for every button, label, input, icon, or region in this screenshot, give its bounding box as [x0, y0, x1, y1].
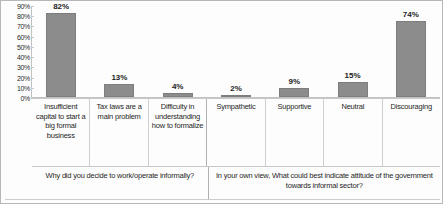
category-label: Neutral [324, 99, 382, 166]
bar-value-label: 82% [53, 2, 69, 11]
y-axis-tick-label: 90% [17, 3, 30, 10]
bar-chart-figure: 90%80%70%60%50%40%30%20%10%0% 82%13%4%2%… [0, 0, 443, 204]
bar-slot: 15% [323, 5, 381, 97]
y-axis-tick-mark [31, 6, 34, 7]
y-axis-tick-label: 30% [17, 64, 30, 71]
bar-slot: 4% [149, 5, 207, 97]
category-label: Insufficient capital to start a big form… [32, 99, 90, 166]
category-label: Tax laws are a main problem [90, 99, 148, 166]
bar[interactable] [221, 95, 251, 97]
y-axis-tick-mark [31, 16, 34, 17]
category-label: Discouraging [383, 99, 440, 166]
y-axis-tick-mark [31, 37, 34, 38]
y-axis-tick-label: 0% [20, 95, 30, 102]
bar[interactable] [163, 93, 193, 97]
bars-area: 82%13%4%2%9%15%74% [32, 5, 440, 98]
y-axis-tick-label: 40% [17, 54, 30, 61]
y-axis-tick-mark [31, 47, 34, 48]
category-label: Sympathetic [207, 99, 265, 166]
y-axis: 90%80%70%60%50%40%30%20%10%0% [5, 5, 31, 98]
bar-value-label: 74% [403, 10, 419, 19]
plot-region: 90%80%70%60%50%40%30%20%10%0% 82%13%4%2%… [5, 5, 440, 98]
group-question-label: Why did you decide to work/operate infor… [32, 167, 209, 200]
bottom-divider [5, 199, 440, 200]
bar[interactable] [279, 88, 309, 97]
bar-slot: 13% [90, 5, 148, 97]
y-axis-tick-mark [31, 67, 34, 68]
y-axis-tick-label: 50% [17, 43, 30, 50]
y-axis-tick-label: 80% [17, 13, 30, 20]
bar-value-label: 4% [172, 82, 184, 91]
bar-slot: 2% [207, 5, 265, 97]
bar[interactable] [104, 84, 134, 97]
group-question-row: Why did you decide to work/operate infor… [32, 166, 440, 200]
y-axis-tick-label: 10% [17, 84, 30, 91]
bar[interactable] [46, 13, 76, 97]
bar-value-label: 9% [289, 77, 301, 86]
bar-value-label: 13% [111, 73, 127, 82]
category-label: Difficulty in understanding how to forma… [149, 99, 207, 166]
bar[interactable] [338, 82, 368, 97]
category-label-row: Insufficient capital to start a big form… [32, 98, 440, 166]
bar[interactable] [396, 21, 426, 97]
y-axis-tick-mark [31, 88, 34, 89]
bar-slot: 82% [32, 5, 90, 97]
y-axis-tick-mark [31, 57, 34, 58]
bar-slot: 74% [382, 5, 440, 97]
y-axis-tick-label: 70% [17, 23, 30, 30]
y-axis-tick-mark [31, 78, 34, 79]
category-label: Supportive [266, 99, 324, 166]
y-axis-tick-label: 20% [17, 74, 30, 81]
y-axis-tick-mark [31, 26, 34, 27]
group-question-label: In your own view, What could best indica… [209, 167, 440, 200]
y-axis-tick-label: 60% [17, 33, 30, 40]
bar-value-label: 15% [345, 71, 361, 80]
bar-value-label: 2% [230, 84, 242, 93]
bar-slot: 9% [265, 5, 323, 97]
